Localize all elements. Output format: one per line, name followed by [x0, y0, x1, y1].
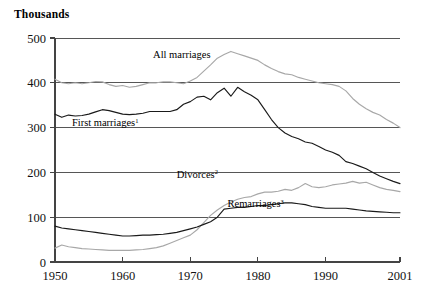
y-tick-label-0: 0 [40, 256, 46, 270]
series-annotation-remarriages: Remarriages3 [228, 198, 284, 210]
series-line-divorces [55, 181, 400, 250]
x-tick-label-1960: 1960 [110, 269, 135, 283]
x-tick-label-1950: 1950 [43, 269, 68, 283]
x-tick-label-1970: 1970 [178, 269, 203, 283]
chart-plot-area: 0100200300400500 19501960197019801990200… [0, 0, 421, 300]
x-tick-label-1990: 1990 [313, 269, 338, 283]
series-line-all-marriages [55, 51, 400, 127]
y-tick-label-100: 100 [27, 211, 46, 225]
series-annotations-group: All marriagesFirst marriages1Divorces2Re… [72, 49, 284, 209]
x-tick-label-1980: 1980 [245, 269, 270, 283]
axis-group [50, 38, 400, 262]
marriage-divorce-line-chart: Thousands 0100200300400500 1950196019701… [0, 0, 421, 300]
x-tick-label-2001: 2001 [388, 269, 413, 283]
y-tick-label-500: 500 [27, 32, 46, 46]
gridlines-group [55, 38, 400, 262]
x-tick-labels-group: 195019601970198019902001 [43, 269, 413, 283]
series-line-first-marriages [55, 87, 400, 183]
series-annotation-divorces: Divorces2 [177, 168, 218, 180]
y-tick-label-300: 300 [27, 121, 46, 135]
y-tick-label-200: 200 [27, 166, 46, 180]
series-annotation-all-marriages: All marriages [153, 49, 210, 60]
series-lines-group [55, 51, 400, 250]
series-annotation-first-marriages: First marriages1 [72, 117, 139, 129]
y-tick-labels-group: 0100200300400500 [27, 32, 46, 270]
y-tick-label-400: 400 [27, 76, 46, 90]
